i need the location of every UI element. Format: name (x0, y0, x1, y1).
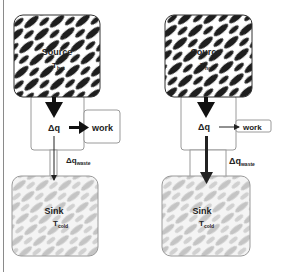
work-label: work (242, 123, 262, 132)
diagram-left: Source Thot Sink Tcold Δq work Δqwaste (12, 15, 120, 256)
waste-label: Δqwaste (66, 156, 91, 166)
heat-engine-diagram: Source Thot Sink Tcold Δq work Δqwaste S… (0, 0, 282, 272)
delta-q-label: Δq (198, 122, 210, 132)
work-label: work (91, 123, 114, 133)
sink-label: Sink (192, 206, 212, 216)
sink-label: Sink (44, 206, 64, 216)
sink-cold-reservoir (12, 176, 98, 256)
source-label: Source (42, 47, 73, 57)
diagram-right: Source Thot Sink Tcold Δq work Δqwaste (162, 15, 271, 256)
waste-label: Δqwaste (229, 156, 255, 167)
source-label: Source (191, 47, 222, 57)
sink-cold-reservoir (162, 176, 250, 256)
waste-arrow-shaft (205, 136, 208, 174)
delta-q-label: Δq (48, 123, 60, 133)
